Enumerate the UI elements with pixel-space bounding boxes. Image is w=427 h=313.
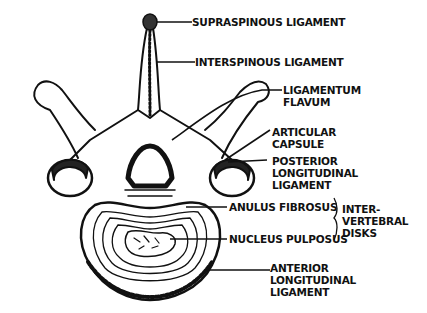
label-ligamentum-flavum: LIGAMENTUM FLAVUM <box>283 84 361 108</box>
label-posterior-longitudinal-ligament: POSTERIOR LONGITUDINAL LIGAMENT <box>272 155 358 191</box>
label-anterior-longitudinal-ligament: ANTERIOR LONGITUDINAL LIGAMENT <box>270 262 356 298</box>
label-articular-capsule: ARTICULAR CAPSULE <box>272 126 336 150</box>
label-supraspinous-ligament: SUPRASPINOUS LIGAMENT <box>192 16 345 28</box>
label-anulus-fibrosus: ANULUS FIBROSUS <box>229 201 337 213</box>
vertebra-drawing <box>0 0 427 313</box>
label-intervertebral-disks: INTER- VERTEBRAL DISKS <box>342 203 408 239</box>
vertebra-diagram: SUPRASPINOUS LIGAMENT INTERSPINOUS LIGAM… <box>0 0 427 313</box>
label-nucleus-pulposus: NUCLEUS PULPOSUS <box>229 233 348 245</box>
label-interspinous-ligament: INTERSPINOUS LIGAMENT <box>195 56 343 68</box>
